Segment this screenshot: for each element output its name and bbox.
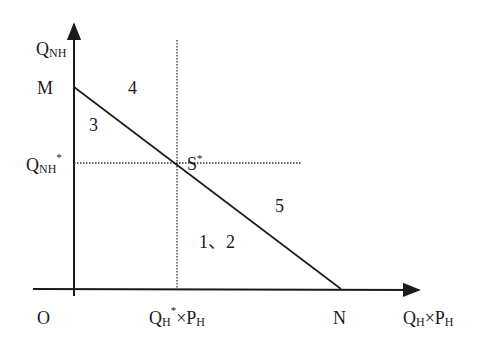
y-axis-label: QNH	[36, 39, 67, 60]
x-star-label: QH*×PH	[149, 304, 205, 329]
region-3-label: 3	[89, 115, 98, 135]
point-n-label: N	[333, 308, 346, 328]
region-1-2-label: 1、2	[199, 232, 235, 252]
origin-label: O	[37, 308, 50, 328]
point-s-star-label: S*	[187, 152, 203, 174]
region-4-label: 4	[128, 78, 137, 98]
x-axis	[33, 289, 419, 290]
region-5-label: 5	[275, 196, 284, 216]
x-axis-label: QH×PH	[403, 308, 454, 329]
budget-line-mn	[74, 87, 341, 289]
y-star-label: QNH*	[26, 151, 62, 176]
diagram-canvas: QNH M QNH* S* 4 3 5 1、2 O QH*×PH N QH×PH	[0, 0, 493, 352]
point-m-label: M	[37, 78, 53, 98]
